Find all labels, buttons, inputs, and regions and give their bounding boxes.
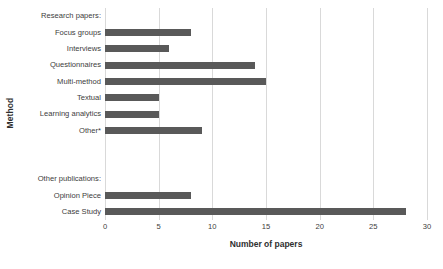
category-label-text: Questionnaires (50, 61, 101, 69)
category-label: Interviews (16, 41, 105, 57)
category-axis-labels: Research papers:Focus groupsInterviewsQu… (16, 8, 105, 220)
gridline (427, 8, 428, 220)
category-label: Case Study (16, 204, 105, 220)
bar-row (105, 171, 427, 187)
bar (105, 94, 159, 101)
category-label-text: Learning analytics (40, 110, 101, 118)
bar (105, 111, 159, 118)
y-axis-title-text: Method (5, 97, 15, 128)
bar-row (105, 139, 427, 155)
category-spacer (16, 139, 105, 155)
x-axis-tick-label: 15 (262, 222, 270, 231)
bar (105, 78, 266, 85)
x-axis-tick-label: 20 (315, 222, 323, 231)
bar-row (105, 24, 427, 40)
bar (105, 62, 255, 69)
bar-row (105, 73, 427, 89)
category-group-header: Other publications: (16, 171, 105, 187)
category-label: Focus groups (16, 24, 105, 40)
category-spacer (16, 155, 105, 171)
x-axis-tick-label: 0 (103, 222, 107, 231)
bar-row (105, 90, 427, 106)
x-axis-title: Number of papers (105, 239, 427, 249)
bar-row (105, 122, 427, 138)
category-label-text: Focus groups (55, 29, 101, 37)
category-label: Textual (16, 90, 105, 106)
category-label-text: Case Study (62, 208, 101, 216)
bar-row (105, 187, 427, 203)
category-label-text: Other publications: (38, 175, 101, 183)
bar (105, 29, 191, 36)
x-axis-tick-labels: 051015202530 (105, 222, 427, 236)
x-axis-tick-label: 5 (157, 222, 161, 231)
bar-row (105, 155, 427, 171)
bar (105, 127, 202, 134)
category-label: Learning analytics (16, 106, 105, 122)
bar (105, 208, 406, 215)
bar-series (105, 8, 427, 220)
x-axis-tick-label: 30 (423, 222, 431, 231)
bar-chart: Method Research papers:Focus groupsInter… (0, 0, 443, 269)
category-label-text: Other* (79, 127, 101, 135)
category-label: Opinion Piece (16, 187, 105, 203)
category-label: Questionnaires (16, 57, 105, 73)
bar-row (105, 57, 427, 73)
x-axis-tick-label: 25 (369, 222, 377, 231)
category-label-text: Opinion Piece (54, 192, 101, 200)
bar-row (105, 204, 427, 220)
category-label-text: Research papers: (41, 12, 101, 20)
category-label: Other* (16, 122, 105, 138)
category-group-header: Research papers: (16, 8, 105, 24)
category-label-text: Interviews (67, 45, 101, 53)
bar-row (105, 8, 427, 24)
category-label: Multi-method (16, 73, 105, 89)
bar-row (105, 106, 427, 122)
x-axis-tick-label: 10 (208, 222, 216, 231)
bar (105, 192, 191, 199)
bar-row (105, 41, 427, 57)
category-label-text: Textual (77, 94, 101, 102)
plot-area (105, 8, 427, 220)
category-label-text: Multi-method (57, 78, 101, 86)
bar (105, 45, 169, 52)
